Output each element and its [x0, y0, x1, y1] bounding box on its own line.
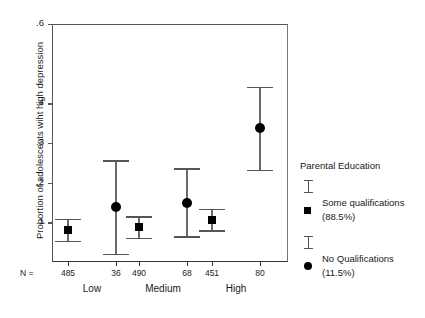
error-bar-cap — [199, 209, 225, 210]
x-axis-tick-mark — [187, 262, 188, 266]
error-bar-cap — [174, 168, 200, 169]
sample-size-value: 451 — [194, 268, 230, 278]
error-bar-cap — [55, 219, 81, 220]
sample-size-value: 485 — [50, 268, 86, 278]
y-axis-tick-label: .2 — [36, 176, 44, 187]
y-axis-tick-label: .6 — [36, 17, 44, 28]
legend-entry-label: No Qualifications — [322, 253, 394, 264]
y-axis-tick-label: .4 — [36, 96, 44, 107]
error-bar-cap — [247, 170, 273, 171]
x-axis-group-label: Low — [57, 283, 127, 294]
error-bar-cap — [103, 160, 129, 161]
y-axis-tick-mark — [48, 222, 52, 223]
plot-area — [52, 24, 288, 262]
x-axis-tick-mark — [212, 262, 213, 266]
error-bar-cap — [55, 241, 81, 242]
y-axis-tick-mark — [48, 103, 52, 104]
error-bar-cap — [126, 238, 152, 239]
x-axis-tick-mark — [116, 262, 117, 266]
y-axis-tick-label: .3 — [36, 136, 44, 147]
sample-size-prefix: N = — [20, 268, 33, 278]
error-bar-cap — [199, 230, 225, 231]
sample-size-value: 80 — [242, 268, 278, 278]
legend-title: Parental Education — [300, 160, 380, 171]
legend-entry-percent: (88.5%) — [322, 211, 355, 222]
legend-entry-percent: (11.5%) — [322, 267, 355, 278]
sample-size-value: 490 — [121, 268, 157, 278]
error-bar-cap — [247, 87, 273, 88]
data-point-square — [135, 223, 143, 231]
data-point-square — [64, 226, 72, 234]
y-axis-tick-mark — [48, 183, 52, 184]
x-axis-group-label: Medium — [128, 283, 198, 294]
x-axis-tick-mark — [260, 262, 261, 266]
error-bar-cap — [174, 236, 200, 237]
y-axis-tick-mark — [48, 24, 52, 25]
error-bar-cap — [126, 216, 152, 217]
y-axis-tick-label: .1 — [36, 215, 44, 226]
x-axis-tick-mark — [68, 262, 69, 266]
data-point-square — [208, 216, 216, 224]
legend-entry-label: Some qualifications — [322, 197, 404, 208]
data-point-circle — [111, 202, 121, 212]
chart-page: Proportion of adolescents wiht high depr… — [0, 0, 425, 318]
x-axis-tick-mark — [139, 262, 140, 266]
x-axis-group-label: High — [201, 283, 271, 294]
legend-square-marker-icon — [304, 207, 311, 214]
data-point-circle — [182, 198, 192, 208]
legend-circle-marker-icon — [304, 262, 312, 270]
y-axis-tick-mark — [48, 143, 52, 144]
error-bar-cap — [103, 254, 129, 255]
